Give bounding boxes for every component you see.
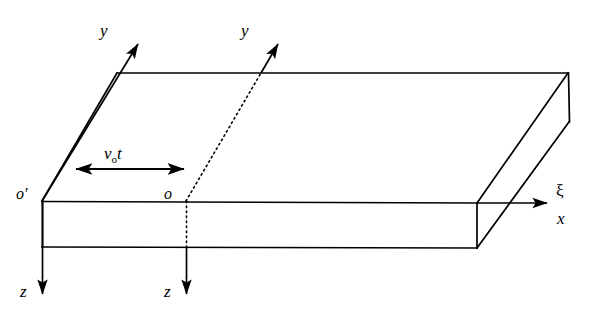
label-y-axis-moving: y — [241, 22, 249, 39]
y-axis-primed-line — [42, 44, 138, 201]
label-displacement-v0t: vot — [104, 145, 122, 165]
slab-edge-back-right-vertical — [569, 73, 570, 122]
label-y-axis-primed: y — [100, 22, 108, 39]
label-displacement-v: v — [104, 144, 112, 163]
slab-edge-front-top — [42, 202, 477, 204]
label-z-axis-primed: z — [20, 283, 27, 300]
label-x-axis: x — [557, 210, 565, 227]
label-displacement-t: t — [117, 144, 122, 163]
label-origin-primed: o′ — [16, 186, 28, 202]
slab-edge-top-right-slant — [477, 73, 568, 203]
diagram-canvas — [0, 0, 601, 316]
y-axis-moving-solid-segment — [261, 44, 278, 73]
slab-edge-front-bottom — [42, 247, 477, 248]
y-axis-moving-dotted-segment — [186, 73, 261, 201]
figure-root: y y o′ o z z ξ x vot — [0, 0, 601, 316]
label-origin-moving: o — [164, 186, 172, 202]
frame-moving — [186, 44, 278, 294]
label-z-axis-moving: z — [164, 283, 171, 300]
label-xi-axis: ξ — [556, 182, 564, 199]
